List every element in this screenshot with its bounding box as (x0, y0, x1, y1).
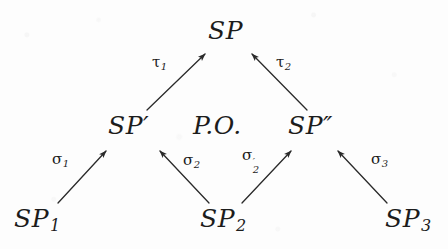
node-sp-base: SP (208, 16, 243, 45)
label-sigma1-sub: 1 (63, 158, 69, 169)
label-sigma2: σ2 (183, 153, 200, 170)
label-sigma2prime-sub: 2 (253, 165, 259, 175)
label-sigma3-sub: 3 (382, 158, 388, 169)
label-tau2-sub: 2 (285, 61, 291, 72)
node-sp1-base: SP (14, 204, 49, 233)
label-sigma1-base: σ (52, 150, 62, 168)
node-sp3: SP3 (385, 206, 431, 234)
node-sp3-sub: 3 (421, 216, 431, 235)
label-tau1-sub: 1 (161, 61, 167, 72)
label-sigma3-base: σ (371, 150, 381, 168)
label-sigma2-sub: 2 (194, 159, 200, 170)
label-tau2: τ2 (276, 55, 291, 72)
label-sigma2prime-base: σ (242, 146, 252, 164)
node-sppp-prime: ″ (323, 111, 332, 140)
node-sp-double-prime: SP″ (288, 113, 333, 141)
node-sp: SP (208, 18, 244, 46)
label-sigma2-base: σ (183, 151, 193, 169)
label-sigma3: σ3 (371, 152, 388, 169)
label-tau1: τ1 (152, 55, 167, 72)
node-sp2: SP2 (200, 206, 246, 234)
commutative-diagram: SP SP′ P.O. SP″ SP1 SP2 SP3 σ1 σ2 σ′2 σ3… (0, 0, 448, 249)
node-sp1-sub: 1 (50, 216, 60, 235)
label-sigma2-prime: σ′2 (242, 148, 259, 175)
node-spp-base: SP (108, 111, 143, 140)
label-tau1-base: τ (152, 53, 160, 71)
node-sp2-base: SP (200, 204, 235, 233)
node-sp2-sub: 2 (236, 216, 246, 235)
node-sp-prime: SP′ (108, 113, 150, 141)
label-sigma2prime-stack: ′2 (253, 159, 259, 175)
label-sigma1: σ1 (52, 152, 69, 169)
pushout-label: P.O. (193, 113, 242, 138)
node-sp1: SP1 (14, 206, 60, 234)
label-tau2-base: τ (276, 53, 284, 71)
node-sp3-base: SP (385, 204, 420, 233)
node-spp-prime: ′ (143, 111, 149, 140)
node-sppp-base: SP (288, 111, 323, 140)
